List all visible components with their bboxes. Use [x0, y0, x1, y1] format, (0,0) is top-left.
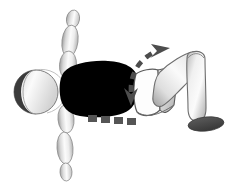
- arm-lowered: [56, 104, 75, 181]
- exercise-illustration: [0, 0, 238, 195]
- figure-svg: [0, 0, 238, 195]
- torso: [60, 61, 139, 118]
- rotation-arrowhead-up: [150, 44, 170, 58]
- baseline-dash: [127, 118, 136, 125]
- head: [14, 69, 66, 114]
- hand-bottom: [60, 163, 73, 182]
- shin: [187, 51, 206, 121]
- baseline-dash: [101, 116, 110, 123]
- baseline-dashes: [88, 115, 136, 125]
- forearm-bottom: [56, 131, 74, 164]
- baseline-dash: [88, 115, 97, 122]
- baseline-dash: [114, 117, 123, 124]
